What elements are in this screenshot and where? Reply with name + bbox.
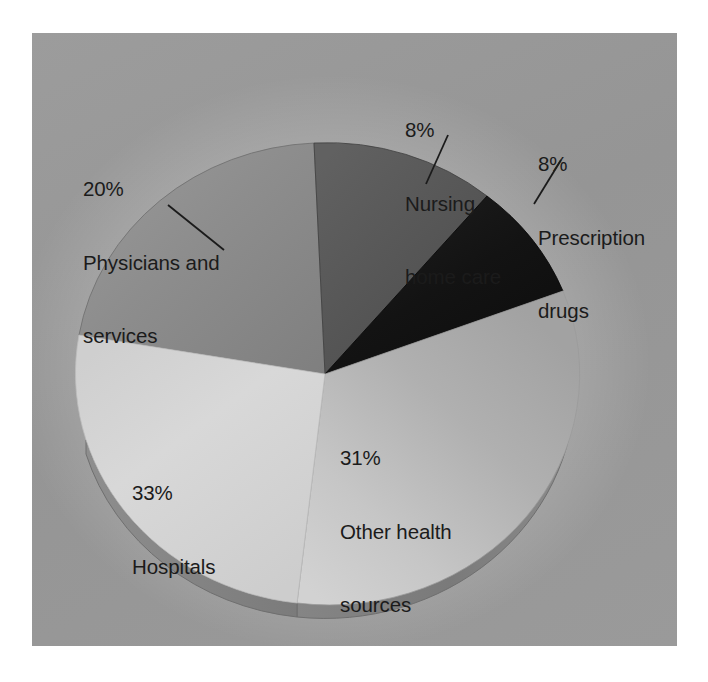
pie-slice-physicians[interactable] <box>79 143 325 374</box>
pie-chart-graphic <box>0 0 708 682</box>
pie-chart-figure: 20% Physicians and services 8% Nursing h… <box>0 0 708 682</box>
pie-slices <box>76 143 580 605</box>
pie-slice-hospitals[interactable] <box>76 335 325 603</box>
leader-line-prescription-drugs <box>534 160 561 204</box>
